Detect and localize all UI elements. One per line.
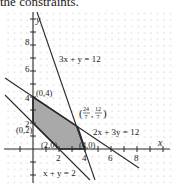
svg-text:): ) [103,107,107,120]
svg-text:,: , [91,109,93,119]
y-tick-8: 8 [25,37,30,47]
y-axis-label: y [35,14,41,25]
x-tick-4: 4 [82,153,87,163]
label-3x-plus-y-12: 3x + y = 12 [59,54,101,64]
svg-text:7: 7 [85,114,88,120]
x-axis-label: x [157,137,163,148]
vertex-0-2: (0,2) [16,125,32,135]
svg-text:12: 12 [95,106,101,112]
dot-grid [5,12,173,184]
y-tick-4: 4 [25,93,30,103]
label-x-plus-y-2: x + y = 2 [43,168,76,178]
x-tick-2: 2 [56,153,61,163]
svg-text:7: 7 [97,114,100,120]
vertex-4-0: (4,0) [79,140,95,150]
x-tick-8: 8 [134,153,139,163]
svg-text:24: 24 [83,106,89,112]
vertex-2-0: (2,0) [41,140,57,150]
label-2x-plus-3y-12: 2x + 3y = 12 [93,127,139,137]
y-tick-6: 6 [25,64,30,74]
constraint-graph: y x 2 4 6 8 2 4 6 8 3x + y = 12 2x + 3y … [0,0,176,186]
vertex-0-4: (0,4) [36,88,52,98]
x-tick-6: 6 [108,153,113,163]
